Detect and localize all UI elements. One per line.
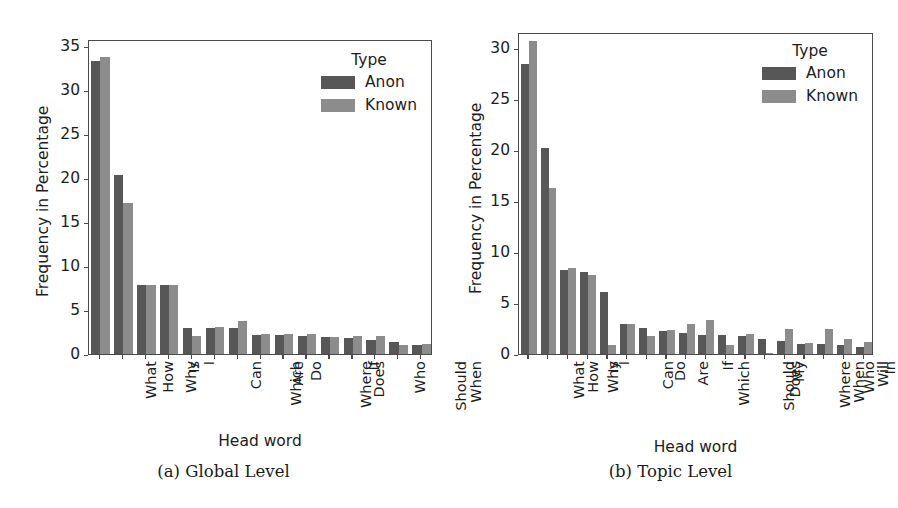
legend-swatch-icon [321, 76, 355, 89]
bar-known-why [568, 268, 576, 354]
bar-anon-can [620, 324, 628, 354]
bar-known-in [864, 342, 872, 354]
x-axis-label: Head word [518, 438, 873, 456]
bar-known-are [261, 334, 270, 354]
legend-label: Anon [806, 64, 846, 82]
legend-label: Anon [365, 73, 405, 91]
y-tick-label: 35 [40, 39, 80, 55]
bar-anon-do [275, 335, 284, 354]
bar-known-if [706, 320, 714, 354]
bar-anon-who [817, 344, 825, 354]
y-tick-label: 30 [470, 41, 510, 57]
x-tick-mark [705, 355, 706, 359]
y-tick-label: 25 [40, 127, 80, 143]
legend-item-known[interactable]: Known [321, 96, 417, 114]
bar-anon-in [856, 347, 864, 354]
bar-known-can [215, 327, 224, 354]
legend-title: Type [351, 51, 387, 69]
legend-item-anon[interactable]: Anon [762, 64, 846, 82]
x-tick-mark [626, 355, 627, 359]
x-tick-mark [420, 355, 421, 359]
bar-known-are [667, 330, 675, 354]
bar-anon-i [183, 328, 192, 354]
x-tick-label: My [791, 361, 807, 382]
chart-panel-global-level: Frequency in Percentage05101520253035Typ… [0, 0, 447, 508]
x-tick-mark [168, 355, 169, 359]
bar-anon-should [389, 342, 398, 354]
bar-known-where [307, 334, 316, 354]
x-tick-mark [282, 355, 283, 359]
bar-anon-do [639, 328, 647, 354]
bar-known-do [284, 334, 293, 354]
bar-known-which [238, 321, 247, 354]
x-tick-label: In [882, 361, 898, 374]
bar-known-when [805, 343, 813, 354]
x-tick-label: Who [413, 361, 429, 393]
panel-caption: (a) Global Level [0, 462, 447, 481]
x-tick-mark [784, 355, 785, 359]
bar-anon-if [698, 335, 706, 354]
bar-anon-what [521, 64, 529, 354]
x-axis-label: Head word [88, 432, 432, 450]
x-tick-mark [606, 355, 607, 359]
bar-known-should [399, 345, 408, 354]
bar-anon-when [412, 345, 421, 354]
x-tick-mark [665, 355, 666, 359]
legend: TypeAnonKnown [762, 42, 858, 110]
bar-known-who [376, 336, 385, 354]
bar-known-can [627, 324, 635, 354]
x-tick-label: Is [186, 361, 202, 373]
bar-known-do [647, 336, 655, 354]
x-tick-label: If [720, 361, 736, 370]
bar-anon-my [758, 339, 766, 354]
x-tick-label: How [160, 361, 176, 393]
bar-known-is [169, 285, 178, 354]
y-tick-label: 20 [470, 143, 510, 159]
bar-anon-is [580, 272, 588, 354]
bar-anon-which [679, 333, 687, 354]
bar-known-who [825, 329, 833, 354]
bar-anon-does [321, 337, 330, 354]
y-tick-label: 20 [40, 171, 80, 187]
legend-title: Type [792, 42, 828, 60]
x-tick-mark [99, 355, 100, 359]
bar-anon-who [366, 340, 375, 354]
x-tick-mark [237, 355, 238, 359]
x-tick-mark [587, 355, 588, 359]
plot-area: TypeAnonKnown [88, 40, 432, 355]
x-tick-label: What [143, 361, 159, 399]
legend-swatch-icon [762, 67, 796, 80]
x-tick-mark [527, 355, 528, 359]
bar-known-where [785, 329, 793, 354]
legend-swatch-icon [762, 90, 796, 103]
y-tick-label: 10 [470, 245, 510, 261]
bar-anon-why [137, 285, 146, 355]
bar-anon-what [91, 61, 100, 354]
y-tick-label: 15 [40, 215, 80, 231]
x-tick-mark [351, 355, 352, 359]
y-tick-label: 15 [470, 194, 510, 210]
legend: TypeAnonKnown [321, 51, 417, 119]
plot-area: TypeAnonKnown [518, 33, 873, 355]
bar-known-what [529, 41, 537, 354]
bar-known-does [330, 337, 339, 354]
x-tick-label: Are [290, 361, 306, 385]
x-tick-label: If [367, 361, 383, 370]
panel-caption: (b) Topic Level [447, 462, 894, 481]
bar-known-if [353, 336, 362, 354]
bar-known-i [192, 336, 201, 354]
y-tick-label: 0 [40, 347, 80, 363]
chart-panel-topic-level: Frequency in Percentage051015202530TypeA… [447, 0, 894, 508]
bar-known-how [123, 203, 132, 354]
bar-anon-where [298, 336, 307, 354]
legend-item-anon[interactable]: Anon [321, 73, 405, 91]
x-tick-mark [685, 355, 686, 359]
legend-item-known[interactable]: Known [762, 87, 858, 105]
bar-known-when [422, 344, 431, 354]
bar-known-my [766, 353, 774, 354]
bar-known-will [844, 339, 852, 354]
x-tick-label: Can [248, 361, 264, 389]
legend-label: Known [806, 87, 858, 105]
y-tick-label: 0 [470, 347, 510, 363]
bar-known-which [687, 324, 695, 354]
